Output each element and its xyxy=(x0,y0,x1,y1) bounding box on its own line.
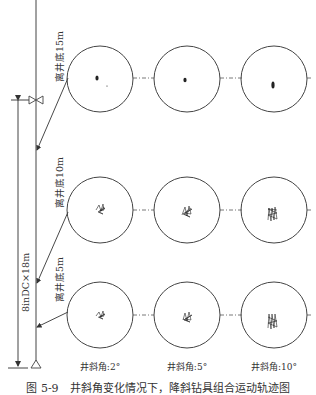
dimension-label: 8inDC×18m xyxy=(20,253,31,312)
column-label-2deg: 井斜角:2° xyxy=(80,360,120,373)
borehole-circle xyxy=(67,46,133,112)
borehole-circle xyxy=(154,46,220,112)
label-15m: 离井底15m xyxy=(52,31,66,82)
borehole-circle xyxy=(241,177,307,243)
support-triangle xyxy=(31,360,41,368)
column-label-5deg: 井斜角:5° xyxy=(167,360,207,373)
column-label-10deg: 井斜角:10° xyxy=(251,360,297,373)
borehole-circle xyxy=(154,282,220,348)
borehole-circle xyxy=(154,177,220,243)
borehole-circle xyxy=(241,282,307,348)
borehole-circle xyxy=(241,46,307,112)
label-5m: 离井底5m xyxy=(52,257,66,302)
label-10m: 离井底10m xyxy=(52,157,66,208)
figure-caption: 图 5-9 井斜角变化情况下，降斜钻具组合运动轨迹图 xyxy=(0,379,316,395)
